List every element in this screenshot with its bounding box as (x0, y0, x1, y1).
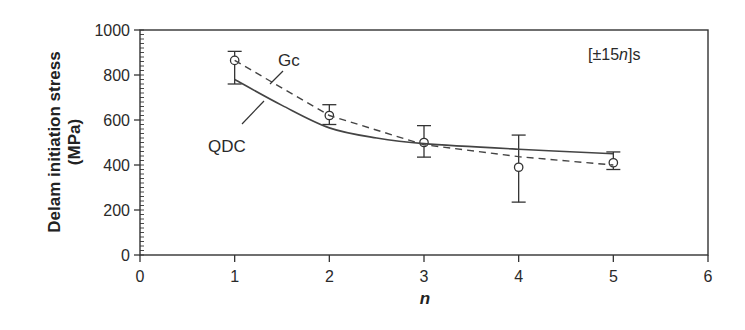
x-axis-title: n (420, 289, 430, 308)
x-tick-label: 0 (136, 268, 145, 285)
data-point-marker (609, 159, 617, 167)
y-tick-label: 200 (103, 202, 130, 219)
gc-leader-line (270, 71, 283, 84)
x-tick-label: 3 (420, 268, 429, 285)
y-tick-label: 800 (103, 67, 130, 84)
y-tick-label: 600 (103, 112, 130, 129)
y-axis-title-line2: (MPa) (65, 119, 84, 165)
qdc-label: QDC (208, 137, 246, 156)
y-tick-label: 0 (121, 247, 130, 264)
chart: 020040060080010000123456 Delam initiatio… (0, 0, 745, 330)
x-tick-label: 6 (704, 268, 713, 285)
annotation-prefix: [±15 (588, 46, 619, 63)
series (228, 51, 621, 202)
annotation-suffix: ]s (628, 46, 640, 63)
data-point-marker (514, 163, 522, 171)
y-tick-label: 1000 (94, 22, 130, 39)
qdc-leader-line (242, 101, 264, 124)
layup-annotation: [±15n]s (588, 46, 640, 63)
x-tick-label: 4 (514, 268, 523, 285)
y-tick-label: 400 (103, 157, 130, 174)
y-axis-title-line1: Delam initiation stress (45, 51, 64, 232)
annotation-italic: n (619, 46, 628, 63)
gc-label: Gc (278, 51, 300, 70)
x-tick-label: 5 (609, 268, 618, 285)
x-tick-label: 1 (230, 268, 239, 285)
x-tick-label: 2 (325, 268, 334, 285)
